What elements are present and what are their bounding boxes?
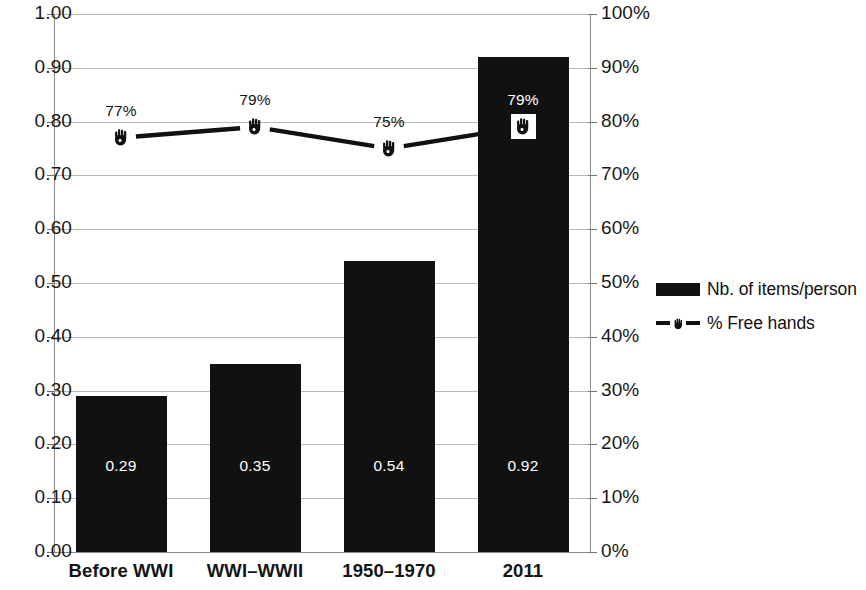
line-value-label: 79% (493, 91, 553, 109)
bar (344, 261, 435, 552)
right-axis-line (590, 14, 591, 553)
right-axis-tick-label: 60% (601, 217, 671, 239)
left-axis-tick-label: 1.00 (10, 2, 72, 24)
right-axis-tick-label: 100% (601, 2, 671, 24)
right-axis-tick-label: 90% (601, 56, 671, 78)
left-axis-tick-label: 0.20 (10, 432, 72, 454)
gridline (54, 14, 591, 15)
hand-icon (243, 114, 268, 139)
right-axis-tick-label: 70% (601, 163, 671, 185)
left-axis-tick-label: 0.80 (10, 110, 72, 132)
left-axis-tick-label: 0.60 (10, 217, 72, 239)
left-axis-tick-label: 0.10 (10, 486, 72, 508)
left-axis-tick-label: 0.50 (10, 271, 72, 293)
left-axis-tick-label: 0.70 (10, 163, 72, 185)
x-axis-label: Before WWI (54, 560, 188, 582)
line-value-label: 77% (91, 102, 151, 120)
legend-item-bars[interactable]: Nb. of items/person (656, 272, 862, 306)
legend-item-free-hands[interactable]: % Free hands (656, 306, 862, 340)
left-axis-tick-label: 0.40 (10, 325, 72, 347)
left-axis-tick-label: 0.90 (10, 56, 72, 78)
hand-icon (670, 316, 686, 331)
bar-value-label: 0.54 (344, 457, 435, 475)
right-axis-tick-label: 20% (601, 432, 671, 454)
chart-container: 0.000.100.200.300.400.500.600.700.800.90… (0, 0, 866, 590)
x-axis-label: 1950–1970 (322, 560, 456, 582)
right-axis-tick-label: 10% (601, 486, 671, 508)
x-axis-label: WWI–WWII (188, 560, 322, 582)
chart-legend: Nb. of items/person % Free hands (656, 272, 862, 340)
hand-icon (109, 125, 134, 150)
bar-value-label: 0.92 (478, 457, 569, 475)
left-axis-tick-label: 0.30 (10, 379, 72, 401)
bar-value-label: 0.35 (210, 457, 301, 475)
bar-value-label: 0.29 (76, 457, 167, 475)
x-axis-label: 2011 (456, 560, 590, 582)
gridline (54, 552, 591, 553)
legend-label-free-hands: % Free hands (707, 313, 815, 334)
right-axis-tick-label: 0% (601, 540, 671, 562)
dashed-line-hand-icon (656, 313, 700, 333)
right-axis-tick-label: 30% (601, 379, 671, 401)
hand-icon (377, 136, 402, 161)
line-value-label: 75% (359, 113, 419, 131)
hand-icon (511, 114, 536, 139)
line-value-label: 79% (225, 91, 285, 109)
legend-label-items-per-person: Nb. of items/person (707, 279, 857, 300)
left-axis-tick-label: 0.00 (10, 540, 72, 562)
right-axis-tick-label: 80% (601, 110, 671, 132)
bar-swatch-icon (656, 283, 700, 296)
